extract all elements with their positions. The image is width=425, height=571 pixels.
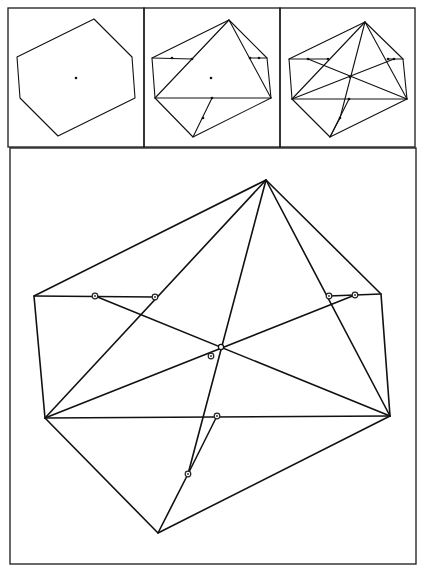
ring-marker-center <box>187 473 189 475</box>
panel-3 <box>289 22 407 137</box>
point-marker <box>171 57 174 60</box>
point-marker <box>202 117 205 120</box>
point-marker <box>191 58 194 61</box>
panel-frames <box>8 8 416 564</box>
construction-line <box>340 22 365 118</box>
point-marker <box>387 58 390 61</box>
point-marker <box>393 58 396 61</box>
point-marker <box>210 77 213 80</box>
ring-marker-center <box>354 294 356 296</box>
construction-line <box>45 295 355 418</box>
construction-line <box>95 296 390 416</box>
panel-main <box>34 180 390 533</box>
point-marker <box>258 57 261 60</box>
construction-line <box>158 474 188 533</box>
ring-marker-center <box>328 295 330 297</box>
construction-line <box>365 22 407 99</box>
panel-1 <box>17 19 135 136</box>
ring-marker-center <box>210 355 212 357</box>
point-marker <box>327 58 330 61</box>
construction-line <box>188 180 266 474</box>
construction-line <box>292 22 365 99</box>
point-marker <box>349 76 352 79</box>
center-intersection-marker <box>218 344 223 349</box>
construction-line <box>292 59 394 99</box>
point-marker <box>249 57 252 60</box>
ring-marker-center <box>94 295 96 297</box>
panel-drawings <box>17 19 407 533</box>
point-marker <box>339 117 342 120</box>
construction-line <box>308 59 407 99</box>
point-marker <box>75 77 78 80</box>
point-marker <box>307 58 310 61</box>
construction-line <box>188 416 217 474</box>
point-marker <box>211 97 214 100</box>
point-marker <box>348 98 351 101</box>
hexagon-construction-figure <box>0 0 425 571</box>
panel-2 <box>152 20 271 137</box>
ring-marker-center <box>216 415 218 417</box>
ring-marker-center <box>154 296 156 298</box>
